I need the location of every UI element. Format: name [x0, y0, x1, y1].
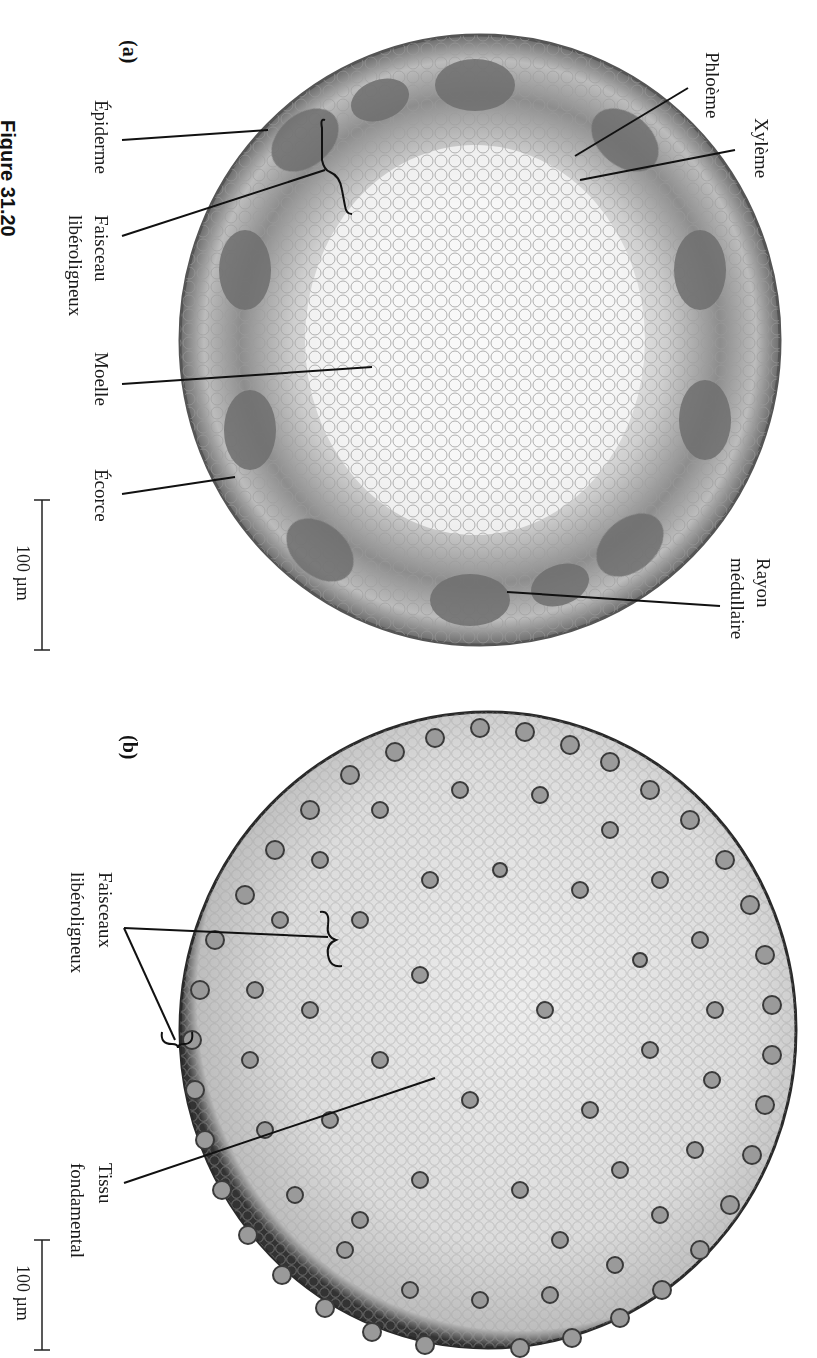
label-epiderme: Épiderme	[90, 100, 112, 174]
leader-epiderme	[122, 130, 268, 140]
label-faisceau-2: libéroligneux	[64, 215, 86, 316]
scale-bar-b-label: 100 µm	[12, 1265, 34, 1321]
label-faisceau-1: Faisceau	[90, 215, 112, 281]
leader-faisceaux-2	[124, 928, 175, 1040]
label-ecorce: Écorce	[90, 469, 112, 522]
label-tissu-2: fondamental	[66, 1163, 88, 1258]
label-xyleme: Xylème	[750, 118, 772, 178]
label-faisceaux-1: Faisceaux	[94, 872, 116, 948]
stem-section-b	[180, 712, 796, 1357]
label-faisceaux-2: libéroligneux	[66, 872, 88, 973]
panel-b-letter: (b)	[118, 735, 141, 759]
scale-bar-a	[34, 500, 50, 650]
scale-bar-b	[34, 1240, 50, 1350]
label-moelle: Moelle	[90, 352, 112, 406]
label-rayon-1: Rayon	[752, 558, 774, 608]
stem-section-a	[180, 35, 780, 645]
figure-graphics	[0, 0, 817, 1358]
label-phloeme: Phloème	[701, 52, 723, 119]
label-tissu-1: Tissu	[94, 1163, 116, 1204]
label-rayon-2: médullaire	[726, 558, 748, 639]
scale-bar-a-label: 100 µm	[12, 545, 34, 601]
